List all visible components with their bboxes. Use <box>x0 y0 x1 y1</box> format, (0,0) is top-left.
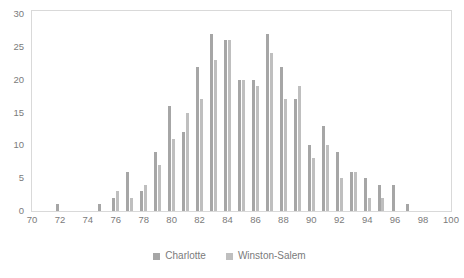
bar <box>350 172 353 211</box>
x-axis-tick-label: 98 <box>410 214 436 226</box>
y-axis-tick-label: 5 <box>19 173 24 183</box>
bar <box>368 198 371 211</box>
legend-swatch-icon <box>153 253 160 260</box>
bar <box>172 139 175 211</box>
y-axis-tick-label: 25 <box>13 42 24 52</box>
x-axis-tick-label: 76 <box>103 214 129 226</box>
y-axis-tick-label: 10 <box>13 140 24 150</box>
legend-item[interactable]: Winston-Salem <box>226 250 306 262</box>
bar <box>116 191 119 211</box>
bar <box>406 204 409 211</box>
bar <box>364 178 367 211</box>
y-axis-tick-label: 20 <box>13 75 24 85</box>
x-axis-tick-label: 70 <box>19 214 45 226</box>
x-axis-tick-label: 78 <box>131 214 157 226</box>
bar <box>200 99 203 211</box>
legend-label: Winston-Salem <box>238 250 306 262</box>
x-axis-labels: 707274767880828486889092949698100 <box>0 214 459 230</box>
bar <box>186 113 189 212</box>
y-axis-labels: 051015202530 <box>0 0 28 222</box>
legend-label: Charlotte <box>165 250 206 262</box>
bar <box>130 198 133 211</box>
bar <box>336 152 339 211</box>
bar <box>228 40 231 211</box>
bar <box>378 185 381 211</box>
x-axis-tick-label: 90 <box>298 214 324 226</box>
x-axis-tick-label: 84 <box>215 214 241 226</box>
bar <box>280 67 283 211</box>
x-axis-tick-label: 82 <box>187 214 213 226</box>
legend-swatch-icon <box>226 253 233 260</box>
chart-legend: CharlotteWinston-Salem <box>0 250 459 262</box>
bar <box>144 185 147 211</box>
y-axis-tick-label: 30 <box>13 9 24 19</box>
legend-item[interactable]: Charlotte <box>153 250 206 262</box>
bar <box>284 99 287 211</box>
bar <box>354 172 357 211</box>
x-axis-tick-label: 86 <box>242 214 268 226</box>
bar <box>270 53 273 211</box>
bar <box>56 204 59 211</box>
bar <box>238 80 241 211</box>
bar <box>182 132 185 211</box>
bar <box>210 34 213 211</box>
x-axis-tick-label: 92 <box>326 214 352 226</box>
bar <box>242 80 245 211</box>
bar <box>266 34 269 211</box>
x-axis-tick-label: 94 <box>354 214 380 226</box>
bar <box>322 126 325 211</box>
bar <box>326 145 329 211</box>
bar <box>298 86 301 211</box>
bar <box>140 191 143 211</box>
x-axis-tick-label: 88 <box>270 214 296 226</box>
bar <box>256 86 259 211</box>
y-axis-tick-label: 15 <box>13 108 24 118</box>
bar <box>112 198 115 211</box>
x-axis-tick-label: 96 <box>382 214 408 226</box>
x-axis-tick-label: 80 <box>159 214 185 226</box>
bar <box>392 185 395 211</box>
bar <box>308 145 311 211</box>
x-axis-tick-label: 72 <box>47 214 73 226</box>
bar <box>252 80 255 211</box>
bar <box>224 40 227 211</box>
bar <box>154 152 157 211</box>
bars-layer <box>32 11 451 211</box>
bar <box>196 67 199 211</box>
bar <box>381 198 384 211</box>
x-axis-tick-label: 100 <box>438 214 464 226</box>
bar <box>126 172 129 211</box>
bar <box>158 165 161 211</box>
bar <box>98 204 101 211</box>
bar <box>294 99 297 211</box>
bar <box>312 158 315 211</box>
bar <box>168 106 171 211</box>
bar <box>340 178 343 211</box>
x-axis-tick-label: 74 <box>75 214 101 226</box>
bar <box>214 60 217 211</box>
